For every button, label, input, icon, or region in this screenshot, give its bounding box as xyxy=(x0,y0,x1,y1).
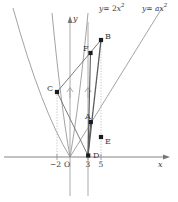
curve-parabola-ax2 xyxy=(13,8,162,157)
point-marker-F xyxy=(88,51,92,55)
segment-C-D xyxy=(57,92,88,156)
point-label-C: C xyxy=(47,85,53,93)
point-label-B: B xyxy=(105,33,111,41)
x-axis-arrowhead xyxy=(163,155,170,160)
y-axis-label: y xyxy=(73,15,78,23)
curve-label-ax2-eq: = xyxy=(146,4,155,13)
tick-label-3: 3 xyxy=(86,161,91,169)
x-axis-label: x xyxy=(158,161,163,169)
origin-label: O xyxy=(64,161,70,169)
tick-label-5: 5 xyxy=(99,161,104,169)
tick-label-neg2: −2 xyxy=(50,161,61,169)
point-marker-E xyxy=(99,135,103,139)
y-axis-arrowhead xyxy=(68,16,73,23)
curve-label-2x2-pow: 2 xyxy=(121,2,125,8)
segment-C-B xyxy=(57,40,101,92)
point-marker-C xyxy=(55,90,59,94)
curve-label-2x2-eq: = 2 xyxy=(103,4,116,13)
point-label-E: E xyxy=(105,138,111,146)
curve-label-2x2: y= 2x2 xyxy=(99,3,124,12)
point-marker-B xyxy=(99,38,103,42)
curve-label-ax2: y= ax2 xyxy=(142,3,167,12)
curve-label-ax2-pow: 2 xyxy=(164,2,168,8)
curve-label-ax2-var: ax xyxy=(155,4,164,13)
point-label-F: F xyxy=(83,45,89,53)
point-label-A: A xyxy=(85,113,91,121)
figure-canvas xyxy=(0,0,178,202)
point-marker-D xyxy=(86,153,90,157)
point-label-D: D xyxy=(93,152,99,160)
geometry-figure: y= 2x2 y= ax2 y x O −2 3 5 A B C D E F xyxy=(0,0,178,202)
